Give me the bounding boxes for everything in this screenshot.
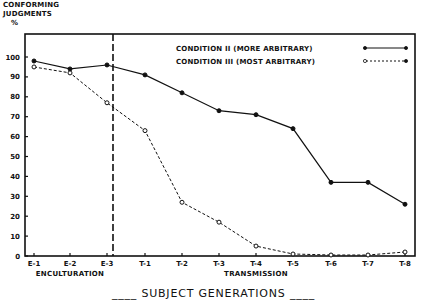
legend-condition-ii-marker	[363, 46, 366, 49]
legend-condition-iii-label: CONDITION III (MOST ARBITRARY)	[176, 58, 315, 66]
condition-iii-marker	[180, 200, 184, 204]
condition-ii-marker	[217, 109, 221, 113]
y-tick-label: 30	[10, 193, 20, 201]
x-tick-label: E-1	[28, 260, 41, 268]
condition-iii-marker	[254, 244, 258, 248]
condition-iii-marker	[217, 220, 221, 224]
condition-iii-marker	[143, 129, 147, 133]
legend-condition-iii-marker	[363, 59, 366, 62]
x-tick-label: T-8	[399, 260, 411, 268]
condition-ii-marker	[32, 59, 36, 63]
condition-ii-marker	[180, 91, 184, 95]
condition-iii-line	[34, 67, 405, 255]
y-tick-label: 50	[10, 153, 20, 161]
y-tick-label: 60	[10, 133, 20, 141]
condition-ii-marker	[143, 73, 147, 77]
y-tick-label: 80	[10, 93, 20, 101]
x-tick-label: T-7	[362, 260, 374, 268]
x-axis-title-text: ____ SUBJECT GENERATIONS ____	[112, 287, 315, 300]
condition-ii-marker	[366, 180, 370, 184]
y-tick-label: 0	[15, 253, 20, 261]
condition-ii-marker	[403, 202, 407, 206]
y-tick-label: 90	[10, 73, 20, 81]
condition-iii-marker	[329, 253, 333, 257]
condition-iii-marker	[32, 65, 36, 69]
x-tick-label: T-2	[176, 260, 188, 268]
condition-ii-marker	[254, 113, 258, 117]
condition-ii-marker	[68, 67, 72, 71]
x-tick-label: E-3	[101, 260, 114, 268]
condition-ii-marker	[105, 63, 109, 67]
condition-iii-marker	[403, 250, 407, 254]
legend-condition-ii-marker	[404, 46, 407, 49]
condition-ii-marker	[291, 127, 295, 131]
transmission-label: TRANSMISSION	[224, 270, 288, 278]
enculturation-label: ENCULTURATION	[36, 270, 105, 278]
x-tick-label: E-2	[64, 260, 77, 268]
condition-iii-marker	[366, 253, 370, 257]
line-chart: 0102030405060708090100E-1E-2E-3T-1T-2T-3…	[0, 0, 427, 302]
condition-iii-marker	[291, 252, 295, 256]
x-tick-label: T-3	[213, 260, 225, 268]
legend-condition-iii-marker	[404, 59, 407, 62]
y-tick-label: 10	[10, 233, 20, 241]
y-tick-label: 40	[10, 173, 20, 181]
condition-ii-marker	[329, 180, 333, 184]
x-tick-label: T-5	[287, 260, 299, 268]
condition-iii-marker	[68, 71, 72, 75]
condition-ii-line	[34, 61, 405, 204]
x-tick-label: T-6	[325, 260, 337, 268]
legend-condition-ii-label: CONDITION II (MORE ARBITRARY)	[176, 45, 313, 53]
y-tick-label: 70	[10, 113, 20, 121]
y-tick-label: 20	[10, 213, 20, 221]
x-tick-label: T-1	[139, 260, 151, 268]
x-tick-label: T-4	[250, 260, 262, 268]
x-axis-title: ____ SUBJECT GENERATIONS ____	[0, 287, 427, 300]
condition-iii-marker	[105, 101, 109, 105]
y-tick-label: 100	[5, 54, 20, 62]
